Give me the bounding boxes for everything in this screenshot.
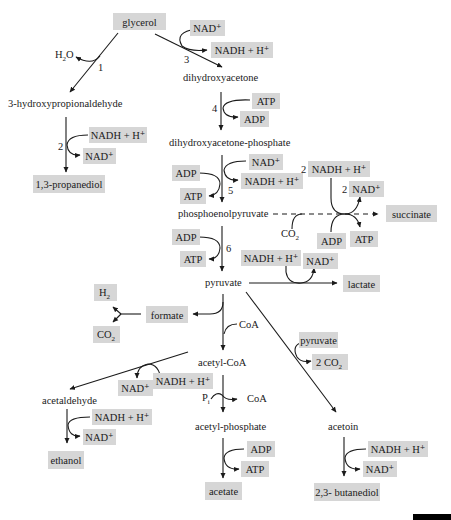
scale-bar: [413, 514, 451, 520]
svg-text:ATP: ATP: [257, 96, 276, 107]
arrow-formate-to-co2: [113, 314, 121, 322]
node-dihydroxyacetone: dihydroxyacetone: [183, 72, 259, 83]
arrow-pyruvate-to-formate: [193, 302, 223, 314]
svg-text:NAD⁺: NAD⁺: [366, 464, 394, 475]
cofactor-atp-step-4: ATP: [252, 93, 280, 109]
arrow-co2-input: [292, 214, 302, 229]
arrow-formate-to-h2: [113, 307, 121, 314]
cofactor-atp-step-6: ATP: [180, 251, 206, 267]
node-h2: H2: [94, 284, 117, 301]
cofactor-coa-output: CoA: [247, 393, 267, 404]
arrow-step-1: [70, 33, 118, 92]
cofactor-nad-succinate: NAD⁺: [349, 181, 384, 197]
svg-text:glycerol: glycerol: [122, 17, 156, 28]
svg-text:NADH + H⁺: NADH + H⁺: [156, 376, 211, 387]
node-glycerol: glycerol: [113, 13, 166, 30]
node-acetyl-coa: acetyl-CoA: [198, 357, 247, 368]
arrow-cofactor-butanediol: [345, 449, 366, 469]
node-lactate: lactate: [343, 275, 380, 292]
svg-text:NADH + H⁺: NADH + H⁺: [312, 164, 367, 175]
cofactor-pi: Pi: [202, 392, 210, 406]
svg-text:ATP: ATP: [184, 254, 203, 265]
svg-text:acetate: acetate: [209, 486, 238, 497]
cofactor-nad-acetaldehyde: NAD⁺: [118, 380, 153, 396]
step-number-5: 5: [228, 185, 233, 196]
cofactor-nadh-succinate: NADH + H⁺: [308, 161, 370, 177]
svg-text:formate: formate: [151, 310, 184, 321]
svg-text:1,3-propanediol: 1,3-propanediol: [36, 179, 103, 190]
svg-text:NAD⁺: NAD⁺: [352, 184, 380, 195]
node-pyruvate: pyruvate: [205, 277, 242, 288]
svg-text:NAD⁺: NAD⁺: [85, 151, 113, 162]
node-succinate: succinate: [386, 205, 437, 222]
node-phosphoenolpyruvate: phosphoenolpyruvate: [178, 208, 269, 219]
node-3-hydroxypropionaldehyde: 3-hydroxypropionaldehyde: [8, 98, 123, 109]
svg-text:pyruvate: pyruvate: [300, 335, 337, 346]
cofactor-adp-acetate: ADP: [247, 441, 275, 457]
cofactor-atp-acetate: ATP: [241, 461, 269, 477]
svg-text:NADH + H⁺: NADH + H⁺: [91, 130, 146, 141]
pathway-diagram: glycerol H2O 1 3-hydroxypropionaldehyde …: [0, 0, 451, 520]
svg-text:NADH + H⁺: NADH + H⁺: [95, 412, 150, 423]
cofactor-nadh-butanediol: NADH + H⁺: [368, 441, 428, 457]
node-co2: CO2: [93, 326, 120, 343]
cofactor-nad-lactate: NAD⁺: [303, 253, 338, 269]
svg-text:ADP: ADP: [175, 232, 196, 243]
cofactor-nad-step-3: NAD⁺: [190, 20, 225, 36]
cofactor-nad-step-5: NAD⁺: [249, 154, 283, 170]
cofactor-co2-acetoin: 2 CO2: [312, 354, 348, 371]
node-acetaldehyde: acetaldehyde: [42, 395, 97, 406]
svg-text:ethanol: ethanol: [51, 455, 82, 466]
svg-text:NADH + H⁺: NADH + H⁺: [215, 45, 270, 56]
cofactor-nad-step-2: NAD⁺: [83, 148, 116, 164]
node-1-3-propanediol: 1,3-propanediol: [33, 175, 105, 193]
step-number-4: 4: [212, 103, 218, 114]
svg-text:succinate: succinate: [392, 209, 431, 220]
node-acetoin: acetoin: [328, 421, 359, 432]
svg-text:NADH + H⁺: NADH + H⁺: [245, 176, 300, 187]
cofactor-atp-step-5: ATP: [180, 188, 206, 204]
arrow-coa-input: [224, 324, 237, 334]
svg-text:NADH + H⁺: NADH + H⁺: [371, 444, 426, 455]
svg-text:ATP: ATP: [184, 191, 203, 202]
step-number-2: 2: [58, 141, 63, 152]
label-h2o: H2O: [55, 49, 74, 63]
arrow-h2o-release: [76, 56, 100, 61]
arrow-adp-to-atp-succinate: [331, 214, 360, 232]
svg-text:2,3- butanediol: 2,3- butanediol: [315, 487, 379, 498]
svg-text:ADP: ADP: [175, 168, 196, 179]
svg-text:ATP: ATP: [355, 234, 374, 245]
cofactor-nad-ethanol: NAD⁺: [83, 429, 116, 445]
svg-text:NAD⁺: NAD⁺: [85, 432, 113, 443]
cofactor-atp-succinate: ATP: [350, 231, 378, 247]
coef-nad-succinate: 2: [342, 184, 347, 195]
svg-text:NAD⁺: NAD⁺: [306, 256, 334, 267]
cofactor-adp-step-5: ADP: [172, 165, 200, 181]
cofactor-adp-step-6: ADP: [172, 229, 200, 245]
cofactor-nadh-ethanol: NADH + H⁺: [92, 409, 152, 425]
node-ethanol: ethanol: [48, 451, 84, 469]
svg-text:NAD⁺: NAD⁺: [193, 23, 221, 34]
cofactor-nadh-step-3: NADH + H⁺: [211, 42, 273, 58]
node-formate: formate: [146, 306, 188, 323]
svg-text:lactate: lactate: [348, 279, 376, 290]
step-number-1: 1: [98, 62, 103, 73]
svg-text:ATP: ATP: [246, 464, 265, 475]
svg-text:ADP: ADP: [321, 236, 342, 247]
cofactor-co2-succinate: CO2: [281, 228, 300, 242]
cofactor-adp-step-4: ADP: [240, 111, 269, 127]
svg-text:NADH + H⁺: NADH + H⁺: [244, 253, 299, 264]
arrow-pi-to-coa: [211, 394, 237, 400]
cofactor-nad-butanediol: NAD⁺: [363, 461, 397, 477]
step-number-3: 3: [184, 54, 189, 65]
svg-text:NAD⁺: NAD⁺: [252, 157, 280, 168]
cofactor-adp-succinate: ADP: [317, 233, 346, 249]
cofactor-coa-input: CoA: [239, 319, 259, 330]
cofactor-nadh-acetaldehyde: NADH + H⁺: [153, 373, 213, 389]
cofactor-nadh-step-5: NADH + H⁺: [241, 173, 303, 189]
cofactor-pyruvate-acetoin: pyruvate: [299, 332, 338, 348]
node-acetate: acetate: [205, 482, 242, 500]
node-2-3-butanediol: 2,3- butanediol: [314, 483, 380, 501]
coef-nadh-succinate: 2: [301, 164, 306, 175]
svg-text:ADP: ADP: [250, 444, 271, 455]
